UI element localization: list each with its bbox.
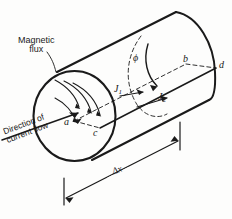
magnetic-flux-arrows — [55, 80, 101, 123]
dimension-arrowhead-left — [66, 197, 74, 203]
dimension-line — [66, 141, 178, 198]
current-flow-arrow-line — [2, 113, 78, 140]
dimension-arrowhead-right — [171, 136, 179, 142]
j2-arrowhead — [160, 96, 167, 102]
cylinder-bottom-edge — [92, 100, 209, 160]
magnetic-flux-leader — [47, 52, 56, 72]
cylinder-top-edge — [57, 12, 176, 72]
dimension-label-gap — [108, 168, 128, 178]
j1-arrowhead — [137, 89, 144, 95]
cylindrical-conductor-figure: Magnetic flux Direction of current flow … — [0, 0, 232, 219]
cylinder-right-cap — [176, 12, 215, 100]
figure-drawing — [0, 0, 232, 219]
segment-c-d — [100, 68, 216, 128]
segment-b-d — [186, 64, 216, 68]
